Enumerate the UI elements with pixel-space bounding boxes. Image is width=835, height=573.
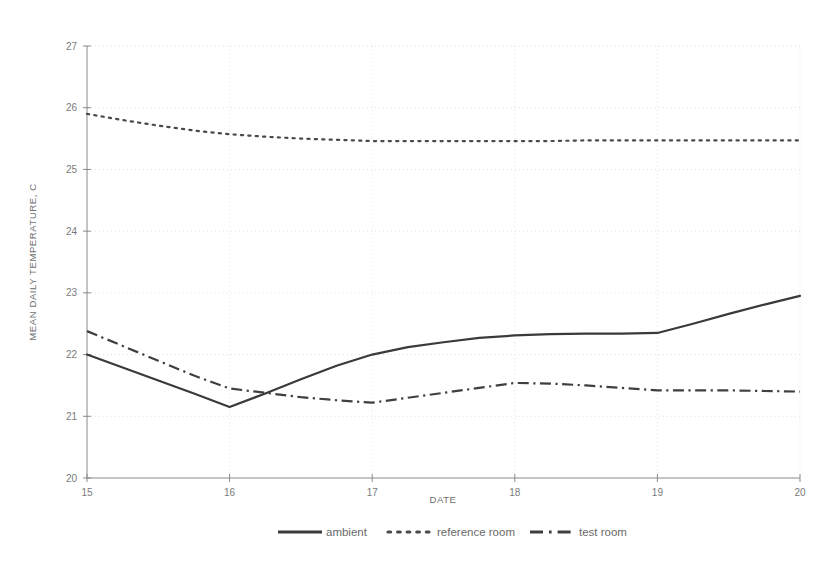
y-tick-label: 21 bbox=[66, 411, 78, 422]
legend-label-test-room: test room bbox=[579, 526, 627, 538]
y-tick-label: 20 bbox=[66, 473, 78, 484]
y-tick-label: 26 bbox=[66, 102, 78, 113]
y-tick-label: 23 bbox=[66, 287, 78, 298]
chart-container: 2021222324252627 151617181920 DATE MEAN … bbox=[0, 0, 835, 573]
x-tick-label: 19 bbox=[652, 487, 664, 498]
y-tick-label: 27 bbox=[66, 41, 78, 52]
y-tick-label: 25 bbox=[66, 164, 78, 175]
x-tick-label: 16 bbox=[224, 487, 236, 498]
y-tick-label: 22 bbox=[66, 349, 78, 360]
x-axis-title: DATE bbox=[429, 494, 456, 505]
legend-label-reference-room: reference room bbox=[437, 526, 515, 538]
x-tick-label: 17 bbox=[367, 487, 379, 498]
x-tick-label: 15 bbox=[81, 487, 93, 498]
x-tick-label: 18 bbox=[509, 487, 521, 498]
series-line-ambient bbox=[87, 296, 800, 407]
data-series bbox=[87, 114, 800, 407]
y-axis: 2021222324252627 bbox=[66, 41, 91, 484]
x-tick-label: 20 bbox=[794, 487, 806, 498]
y-tick-label: 24 bbox=[66, 226, 78, 237]
grid-lines bbox=[87, 46, 800, 478]
series-line-reference-room bbox=[87, 114, 800, 141]
line-chart: 2021222324252627 151617181920 DATE MEAN … bbox=[0, 0, 835, 573]
legend-label-ambient: ambient bbox=[326, 526, 368, 538]
legend: ambient reference room test room bbox=[278, 526, 627, 538]
y-axis-title: MEAN DAILY TEMPERATURE, C bbox=[27, 183, 38, 340]
